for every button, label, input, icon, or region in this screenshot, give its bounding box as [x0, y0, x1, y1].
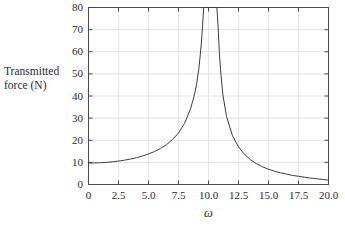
y-tick-label: 80: [59, 2, 83, 13]
x-tick-label: 0: [73, 190, 105, 201]
y-tick-label: 50: [59, 68, 83, 79]
y-tick-label: 20: [59, 135, 83, 146]
y-tick-label: 40: [59, 91, 83, 102]
x-tick-label: 10.0: [193, 190, 225, 201]
x-tick-label: 12.5: [223, 190, 255, 201]
plot-area: [88, 7, 329, 185]
y-tick-label: 60: [59, 46, 83, 57]
y-tick-label: 0: [59, 179, 83, 190]
y-tick-label: 70: [59, 24, 83, 35]
y-tick-label: 10: [59, 157, 83, 168]
x-axis-label: ω: [88, 206, 329, 221]
chart-figure: Transmitted force (N) 01020304050607080 …: [0, 0, 345, 230]
gridlines: [89, 8, 329, 185]
y-tick-label: 30: [59, 113, 83, 124]
x-tick-label: 2.5: [103, 190, 135, 201]
x-tick-label: 20.0: [313, 190, 345, 201]
x-tick-label: 7.5: [163, 190, 195, 201]
plot-canvas: [88, 7, 329, 185]
x-tick-label: 17.5: [283, 190, 315, 201]
x-tick-label: 15.0: [253, 190, 285, 201]
x-tick-label: 5.0: [133, 190, 165, 201]
